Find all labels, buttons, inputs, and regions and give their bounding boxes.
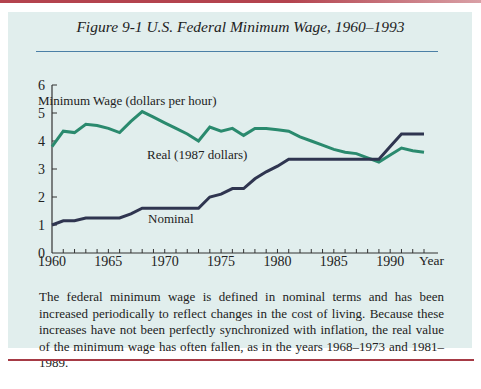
svg-text:5: 5 — [38, 106, 45, 121]
svg-text:1975: 1975 — [207, 254, 235, 269]
svg-text:6: 6 — [38, 78, 45, 93]
svg-text:1960: 1960 — [38, 254, 66, 269]
svg-text:1965: 1965 — [94, 254, 122, 269]
y-axis-label: Minimum Wage (dollars per hour) — [38, 93, 217, 108]
nominal-series-label: Nominal — [148, 211, 194, 226]
svg-text:3: 3 — [38, 162, 45, 177]
x-axis-label: Year — [419, 253, 444, 268]
chart-axes — [52, 85, 438, 253]
svg-text:1: 1 — [38, 218, 45, 233]
bottom-accent-rule — [8, 359, 474, 361]
svg-text:2: 2 — [38, 190, 45, 205]
svg-text:1990: 1990 — [376, 254, 404, 269]
svg-text:1980: 1980 — [263, 254, 291, 269]
svg-text:1985: 1985 — [320, 254, 348, 269]
svg-text:4: 4 — [38, 134, 45, 149]
svg-text:1970: 1970 — [151, 254, 179, 269]
real-series-label: Real (1987 dollars) — [147, 147, 247, 162]
